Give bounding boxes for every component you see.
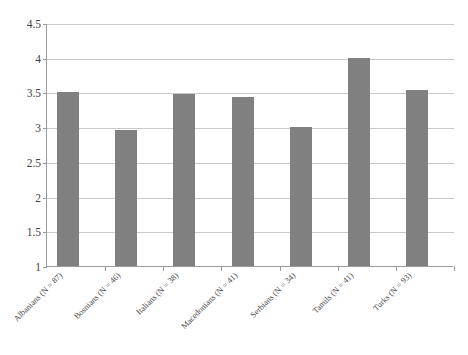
x-axis-tick-label: Italians (N = 38) xyxy=(135,271,181,317)
x-axis-tick-label: Serbians (N = 34) xyxy=(248,271,297,320)
y-axis-tick-label: 3.5 xyxy=(27,87,41,99)
bar xyxy=(290,127,312,266)
y-axis-tick xyxy=(43,93,47,94)
bar xyxy=(57,92,79,266)
x-axis-tick-label: Tamils (N = 41) xyxy=(311,271,355,315)
x-axis-tick-label: Bosnians (N = 46) xyxy=(73,271,123,321)
y-axis-tick-label: 1.5 xyxy=(27,226,41,238)
bar xyxy=(406,90,428,266)
bar xyxy=(173,94,195,266)
y-axis-label-group: 11.522.533.544.5 xyxy=(0,24,41,267)
gridline xyxy=(47,93,454,94)
bar xyxy=(232,97,254,266)
x-axis-tick-label: Albanians (N = 87) xyxy=(12,271,64,323)
gridline xyxy=(47,24,454,25)
x-axis-label-group: Albanians (N = 87)Bosnians (N = 46)Itali… xyxy=(0,268,468,355)
x-axis-tick-label: Macedonians (N = 41) xyxy=(179,271,239,331)
bar-chart-figure: 11.522.533.544.5 Albanians (N = 87)Bosni… xyxy=(0,0,468,355)
y-axis-tick-label: 4 xyxy=(35,53,41,65)
y-axis-tick xyxy=(43,59,47,60)
y-axis-tick-label: 2 xyxy=(35,192,41,204)
gridline xyxy=(47,59,454,60)
y-axis-tick xyxy=(43,232,47,233)
y-axis-tick xyxy=(43,163,47,164)
x-axis-tick-label: Turks (N = 93) xyxy=(371,271,413,313)
y-axis-tick xyxy=(43,128,47,129)
y-axis-tick xyxy=(43,198,47,199)
y-axis-tick-label: 4.5 xyxy=(27,18,41,30)
y-axis-tick xyxy=(43,24,47,25)
y-axis-tick-label: 2.5 xyxy=(27,157,41,169)
bar xyxy=(348,58,370,266)
y-axis-tick-label: 3 xyxy=(35,122,41,134)
bar xyxy=(115,130,137,266)
plot-area xyxy=(46,24,453,267)
